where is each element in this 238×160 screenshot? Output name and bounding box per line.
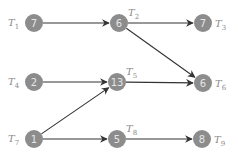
edge-t7-t5 — [41, 88, 108, 134]
task-label: T4 — [8, 76, 20, 90]
node-t3: 7T3 — [194, 14, 226, 32]
task-label: T1 — [8, 17, 19, 31]
node-t7: 1T7 — [8, 130, 43, 148]
node-value: 8 — [199, 134, 205, 145]
task-graph: 7T16T27T32T413T56T61T75T88T9 — [0, 0, 238, 160]
task-label: T5 — [126, 66, 137, 80]
node-t6: 6T6 — [194, 74, 227, 92]
task-label: T6 — [215, 78, 227, 92]
task-label: T7 — [8, 133, 19, 147]
node-value: 1 — [31, 134, 37, 145]
task-label: T2 — [128, 7, 139, 21]
node-value: 6 — [116, 18, 122, 29]
node-value: 7 — [200, 18, 206, 29]
task-label: T8 — [126, 123, 137, 137]
node-value: 7 — [31, 18, 37, 29]
node-t5: 13T5 — [108, 66, 137, 91]
task-label: T9 — [214, 134, 225, 148]
edge-t5-t6 — [126, 82, 193, 83]
task-label: T3 — [215, 18, 226, 32]
node-value: 2 — [31, 77, 37, 88]
nodes: 7T16T27T32T413T56T61T75T88T9 — [8, 7, 227, 148]
node-t8: 5T8 — [108, 123, 137, 148]
node-value: 5 — [114, 134, 120, 145]
node-t1: 7T1 — [8, 14, 43, 32]
node-t2: 6T2 — [110, 7, 139, 32]
edge-t2-t6 — [126, 28, 195, 77]
node-value: 13 — [111, 77, 124, 88]
node-t9: 8T9 — [193, 130, 225, 148]
node-value: 6 — [200, 78, 206, 89]
node-t4: 2T4 — [8, 73, 43, 91]
